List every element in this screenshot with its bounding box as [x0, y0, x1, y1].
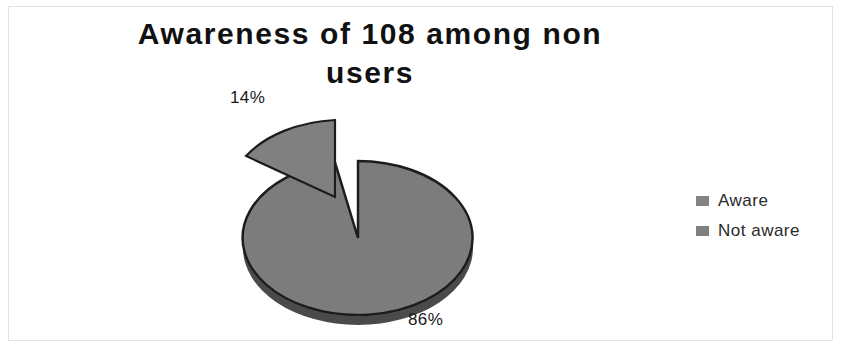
- pie-slice-not-aware[interactable]: [243, 161, 473, 315]
- frame-border-top: [8, 6, 832, 7]
- legend-item-aware[interactable]: Aware: [696, 186, 800, 216]
- frame-border-left: [8, 6, 9, 340]
- pie-plot-area: 14% 86%: [225, 95, 525, 330]
- legend-label-aware: Aware: [718, 191, 768, 211]
- chart-title: Awareness of 108 among non users: [60, 14, 680, 92]
- data-label-not-aware: 86%: [408, 310, 443, 330]
- legend-item-not-aware[interactable]: Not aware: [696, 216, 800, 246]
- legend-swatch-icon-not-aware: [696, 226, 709, 236]
- frame-border-bottom: [8, 340, 832, 341]
- pie-chart-figure: Awareness of 108 among non users: [0, 0, 845, 351]
- legend-label-not-aware: Not aware: [718, 221, 800, 241]
- legend-swatch-icon-aware: [696, 196, 709, 206]
- frame-border-right: [832, 6, 833, 340]
- pie-svg: [225, 95, 525, 330]
- chart-legend: Aware Not aware: [696, 186, 800, 246]
- data-label-aware: 14%: [230, 88, 265, 108]
